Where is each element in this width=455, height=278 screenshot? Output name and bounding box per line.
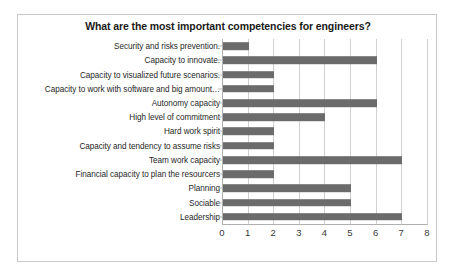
category-label: Team work capacity [149,155,220,164]
chart-title: What are the most important competencies… [18,20,438,32]
category-label: Capacity to innovate. [145,56,220,65]
x-tick-label: 8 [424,227,429,238]
category-label: High level of commitment [129,113,220,122]
bar-row: Team work capacity [18,153,438,167]
category-label: Financial capacity to plan the resourcer… [76,170,221,179]
bar [223,213,402,221]
category-label: Hard work spirit [164,127,220,136]
y-axis-tick [218,145,222,146]
x-tick-label: 6 [373,227,378,238]
bar [223,128,274,136]
y-axis-tick [218,174,222,175]
bar-row: Autonomy capacity [18,96,438,110]
y-axis-tick [218,202,222,203]
bar [223,42,249,50]
category-label: Autonomy capacity [152,99,220,108]
bar [223,170,274,178]
category-label: Security and risks prevention. [114,42,220,51]
x-axis-line [222,224,428,225]
bar [223,57,377,65]
category-label: Capacity to visualized future scenarios. [80,70,220,79]
bar [223,142,274,150]
y-axis-tick [218,60,222,61]
bar [223,71,274,79]
bar-row: Hard work spirit [18,124,438,138]
bar [223,99,377,107]
bar-row: Capacity to work with software and big a… [18,82,438,96]
y-axis-tick [218,117,222,118]
bar-row: Sociable [18,196,438,210]
category-label: Planning [189,184,220,193]
plot-area: Security and risks prevention.Capacity t… [18,39,438,235]
bar-row: Leadership [18,210,438,224]
y-axis-tick [218,216,222,217]
x-axis-tick-labels: 012345678 [222,227,427,243]
y-axis-tick [218,159,222,160]
bar-row: High level of commitment [18,110,438,124]
bar-row: Capacity and tendency to assume risks [18,139,438,153]
x-tick-label: 1 [245,227,250,238]
bar-row: Security and risks prevention. [18,39,438,53]
x-tick-label: 0 [219,227,224,238]
y-axis-tick [218,46,222,47]
bar-row: Capacity to visualized future scenarios. [18,67,438,81]
y-axis-tick [218,88,222,89]
chart-container: What are the most important competencies… [17,14,437,262]
bar-row: Financial capacity to plan the resourcer… [18,167,438,181]
bar-row: Capacity to innovate. [18,53,438,67]
bar [223,156,402,164]
x-tick-label: 3 [296,227,301,238]
x-tick-label: 2 [271,227,276,238]
y-axis-tick [218,188,222,189]
category-label: Capacity and tendency to assume risks [79,141,220,150]
bar [223,113,325,121]
y-axis-tick [218,131,222,132]
bar [223,199,351,207]
category-label: Sociable [189,198,220,207]
y-axis-tick [218,103,222,104]
x-tick-label: 4 [322,227,327,238]
y-axis-tick [218,74,222,75]
bar-row: Planning [18,181,438,195]
category-label: Capacity to work with software and big a… [45,84,220,93]
bar [223,85,274,93]
x-tick-label: 5 [347,227,352,238]
x-tick-label: 7 [399,227,404,238]
category-label: Leadership [180,212,220,221]
bar [223,185,351,193]
